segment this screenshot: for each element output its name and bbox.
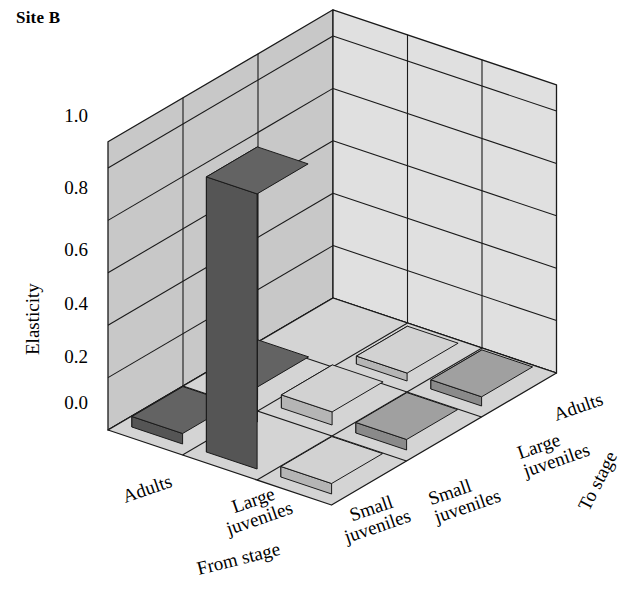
chart-root: Site B 0.0 0.2 0.4 0.6 0.8 1.0 Elasticit…: [0, 0, 639, 601]
bar-face-front: [206, 177, 257, 469]
chart-scene: [0, 0, 639, 601]
